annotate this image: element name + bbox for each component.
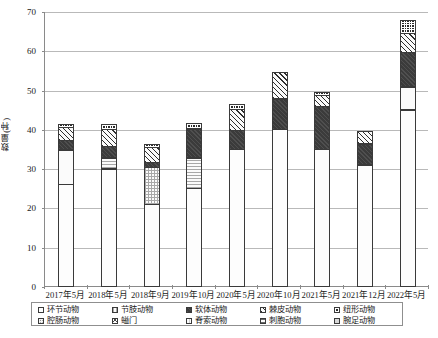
bar-segment [272, 129, 288, 286]
bar-stack[interactable] [58, 124, 74, 286]
bar-segment [101, 146, 117, 158]
bar-segment [186, 188, 202, 286]
x-tick-label: 2021年5月 [302, 290, 341, 300]
bar-segment [400, 52, 416, 87]
y-axis-tick-labels: 010203040506070 [0, 12, 40, 287]
bar-segment [314, 149, 330, 287]
legend-label: 软体动物 [195, 305, 227, 314]
x-tick-label: 2018年9月 [131, 290, 170, 300]
bar-segment [357, 131, 373, 145]
x-tick-label: 2020年5月 [216, 290, 255, 300]
bar-segment [101, 169, 117, 287]
legend-swatch [186, 318, 192, 324]
legend-label: 腕足动物 [343, 316, 375, 325]
legend-item[interactable]: 刺胞动物 [254, 316, 328, 325]
y-tick-label: 20 [27, 204, 36, 213]
bar-segment [144, 204, 160, 287]
x-tick-label: 2020年10月 [257, 290, 301, 300]
bar-series-container [45, 12, 428, 286]
bar-stack[interactable] [144, 144, 160, 286]
legend-label: 脊索动物 [195, 316, 227, 325]
bar-stack[interactable] [314, 92, 330, 286]
x-tick-mark [215, 285, 216, 289]
legend-swatch [112, 307, 118, 313]
x-axis-tick-labels: 2017年5月2018年5月2018年9月2019年10月2020年5月2020… [44, 289, 428, 303]
bar-segment [229, 130, 245, 150]
legend-swatch [260, 307, 266, 313]
bar-stack[interactable] [357, 131, 373, 286]
bar-segment [314, 106, 330, 149]
legend-item[interactable]: 软体动物 [180, 305, 254, 314]
bar-segment [144, 147, 160, 163]
bar-segment [400, 20, 416, 34]
legend-swatch [112, 318, 118, 324]
bar-segment [144, 167, 160, 204]
x-tick-label: 2018年5月 [88, 290, 127, 300]
y-tick-label: 60 [27, 47, 36, 56]
legend-label: 刺胞动物 [269, 316, 301, 325]
bar-segment [58, 150, 74, 185]
legend-item[interactable]: 腕足动物 [328, 316, 402, 325]
y-tick-label: 10 [27, 243, 36, 252]
x-tick-label: 2017年5月 [46, 290, 85, 300]
y-tick-label: 30 [27, 165, 36, 174]
legend-row-2: 腔肠动物螠门脊索动物刺胞动物腕足动物 [32, 315, 402, 326]
legend-item[interactable]: 棘皮动物 [254, 305, 328, 314]
legend-label: 螠门 [121, 316, 137, 325]
legend-label: 节肢动物 [121, 305, 153, 314]
legend-label: 纽形动物 [343, 305, 375, 314]
x-tick-mark [129, 285, 130, 289]
bar-stack[interactable] [101, 124, 117, 286]
legend-item[interactable]: 节肢动物 [106, 305, 180, 314]
legend-swatch [334, 307, 340, 313]
bar-segment [400, 110, 416, 287]
x-tick-mark [343, 285, 344, 289]
bar-stack[interactable] [186, 123, 202, 286]
legend-label: 棘皮动物 [269, 305, 301, 314]
x-tick-mark [428, 285, 429, 289]
legend-swatch [186, 307, 192, 313]
bar-segment [229, 109, 245, 131]
x-tick-mark [172, 285, 173, 289]
legend-label: 腔肠动物 [47, 316, 79, 325]
x-tick-mark [385, 285, 386, 289]
plot-area [44, 12, 428, 287]
x-tick-label: 2019年10月 [171, 290, 215, 300]
x-tick-mark [257, 285, 258, 289]
legend-item[interactable]: 脊索动物 [180, 316, 254, 325]
y-tick-label: 50 [27, 86, 36, 95]
legend-swatch [260, 318, 266, 324]
legend-item[interactable]: 腔肠动物 [32, 316, 106, 325]
legend-swatch [38, 318, 44, 324]
bar-segment [229, 149, 245, 287]
legend-item[interactable]: 环节动物 [32, 305, 106, 314]
chart-figure: 数量(种) 010203040506070 2017年5月2018年5月2018… [0, 0, 438, 338]
bar-stack[interactable] [400, 20, 416, 286]
bar-segment [58, 184, 74, 286]
y-tick-label: 70 [27, 8, 36, 17]
y-tick-label: 40 [27, 125, 36, 134]
bar-segment [400, 33, 416, 53]
bar-segment [314, 95, 330, 107]
bar-segment [357, 165, 373, 287]
legend-swatch [38, 307, 44, 313]
bar-segment [400, 87, 416, 111]
bar-stack[interactable] [229, 104, 245, 286]
bar-segment [101, 158, 117, 170]
x-tick-mark [44, 285, 45, 289]
x-tick-mark [87, 285, 88, 289]
bar-segment [186, 158, 202, 189]
legend-swatch [334, 318, 340, 324]
bar-segment [272, 99, 288, 130]
bar-segment [101, 129, 117, 147]
bar-segment [58, 127, 74, 141]
bar-segment [186, 129, 202, 158]
x-tick-mark [300, 285, 301, 289]
bar-segment [357, 144, 373, 166]
legend-row-1: 环节动物节肢动物软体动物棘皮动物纽形动物 [32, 304, 402, 315]
bar-stack[interactable] [272, 72, 288, 286]
legend-item[interactable]: 纽形动物 [328, 305, 402, 314]
x-tick-label: 2021年12月 [342, 290, 386, 300]
legend-item[interactable]: 螠门 [106, 316, 180, 325]
bar-segment [272, 72, 288, 100]
